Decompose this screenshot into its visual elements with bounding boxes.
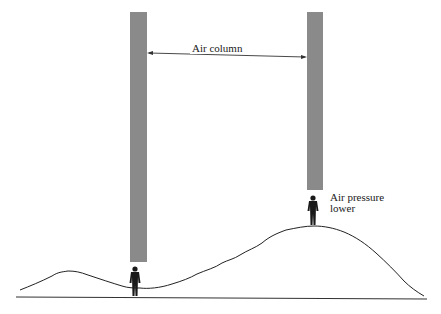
- terrain-profile: [20, 226, 424, 296]
- air-pressure-label: Air pressure lower: [330, 192, 384, 214]
- ground-baseline: [16, 297, 427, 299]
- air-column-valley: [130, 12, 147, 262]
- air-column-peak: [307, 12, 323, 190]
- person-peak-icon: [308, 195, 319, 225]
- air-pressure-diagram: Air column Air pressure lower: [0, 0, 441, 314]
- air-pressure-label-line2: lower: [330, 203, 384, 214]
- air-column-label: Air column: [190, 43, 244, 54]
- person-valley-icon: [130, 266, 141, 296]
